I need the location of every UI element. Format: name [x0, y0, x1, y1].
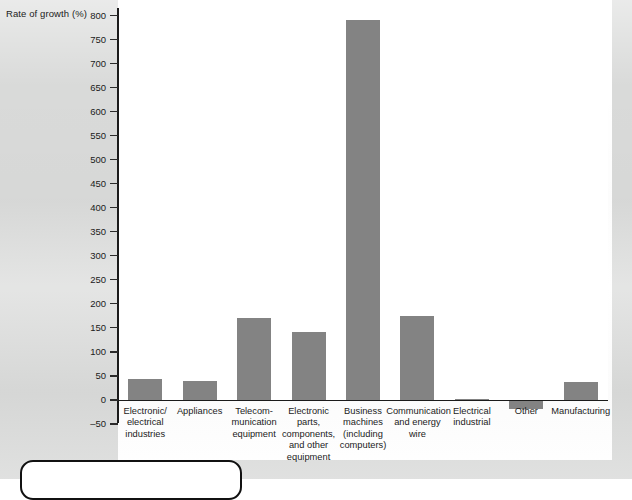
y-axis-tick	[110, 39, 118, 40]
bar	[128, 379, 162, 400]
bar	[346, 20, 380, 400]
x-axis-category-label: Electrical industrial	[441, 406, 503, 429]
x-axis-category-label: Other	[495, 406, 557, 417]
y-axis-tick	[110, 351, 118, 352]
x-axis-category-label: Manufacturing	[550, 406, 612, 417]
y-axis-tick-label: 50	[72, 371, 106, 381]
y-axis-tick-label: 450	[72, 179, 106, 189]
y-axis-tick-label: 500	[72, 155, 106, 165]
y-axis-tick	[110, 87, 118, 88]
y-axis-tick	[110, 207, 118, 208]
bar	[237, 318, 271, 400]
y-axis-tick	[110, 327, 118, 328]
x-axis-zero-line	[117, 400, 608, 402]
callout-box	[20, 460, 242, 500]
y-axis-tick	[110, 255, 118, 256]
y-axis-tick	[110, 15, 118, 16]
bar	[292, 332, 326, 400]
y-axis-tick-label: 300	[72, 251, 106, 261]
y-axis-tick-label: 400	[72, 203, 106, 213]
y-axis-tick	[110, 399, 118, 400]
y-axis-tick-label: 800	[72, 11, 106, 21]
y-axis-tick	[110, 183, 118, 184]
y-axis-tick	[110, 159, 118, 160]
y-axis-tick-label: 650	[72, 83, 106, 93]
y-axis-tick-label: 250	[72, 275, 106, 285]
y-axis-tick	[110, 135, 118, 136]
y-axis-spine	[117, 8, 119, 423]
x-axis-category-label: Appliances	[168, 406, 230, 417]
y-axis-tick-label: 550	[72, 131, 106, 141]
y-axis-tick-label: –50	[72, 419, 106, 429]
x-axis-category-label: Business machines (including computers)	[332, 406, 394, 452]
bar	[400, 316, 434, 400]
y-axis-tick-label: 600	[72, 107, 106, 117]
x-axis-category-label: Communication and energy wire	[386, 406, 448, 440]
y-axis-tick	[110, 303, 118, 304]
page-right-margin	[612, 0, 632, 479]
y-axis-tick-label: 700	[72, 59, 106, 69]
y-axis-tick-label: 350	[72, 227, 106, 237]
y-axis-tick-label: 100	[72, 347, 106, 357]
bar	[183, 381, 217, 400]
x-axis-category-label: Telecom- munication equipment	[223, 406, 285, 440]
y-axis-tick	[110, 375, 118, 376]
y-axis-tick-label: 150	[72, 323, 106, 333]
x-axis-category-label: Electronic/ electrical industries	[114, 406, 176, 440]
y-axis-tick-label: 750	[72, 35, 106, 45]
x-axis-category-label: Electronic parts, components, and other …	[277, 406, 339, 463]
y-axis-tick	[110, 231, 118, 232]
y-axis-tick	[110, 63, 118, 64]
y-axis-tick	[110, 279, 118, 280]
y-axis-tick-label: 0	[72, 395, 106, 405]
y-axis-tick	[110, 111, 118, 112]
bar	[564, 382, 598, 400]
y-axis-tick-label: 200	[72, 299, 106, 309]
bar-chart-plot-area	[118, 8, 608, 400]
